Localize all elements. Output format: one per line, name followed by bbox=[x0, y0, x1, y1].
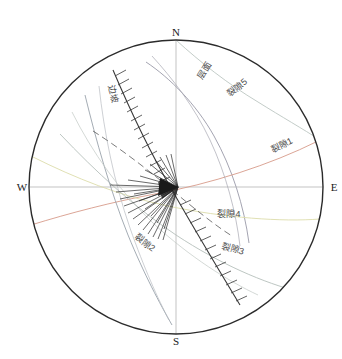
plane-label-slope: 边坡 bbox=[106, 84, 122, 104]
stereonet-figure: N E S W 层面 裂隙5 裂隙1 裂隙4 裂隙3 裂隙2 边坡 bbox=[0, 0, 342, 359]
stereonet-canvas: N E S W 层面 裂隙5 裂隙1 裂隙4 裂隙3 裂隙2 边坡 bbox=[0, 0, 342, 359]
cardinal-label-east: E bbox=[331, 181, 338, 193]
hachure-ticks-upper bbox=[115, 70, 170, 182]
cardinal-label-south: S bbox=[173, 335, 179, 347]
plane-label-joint2: 裂隙2 bbox=[133, 231, 158, 253]
plane-label-joint4: 裂隙4 bbox=[217, 208, 240, 219]
great-circle-joint3 bbox=[60, 134, 300, 292]
plane-label-joint5: 裂隙5 bbox=[224, 76, 249, 99]
plane-label-joint1: 裂隙1 bbox=[269, 135, 295, 155]
cardinal-label-west: W bbox=[17, 181, 28, 193]
great-circle-secondary-a bbox=[99, 86, 169, 320]
plane-label-joint3: 裂隙3 bbox=[220, 240, 245, 256]
cardinal-label-north: N bbox=[172, 26, 180, 38]
great-circle-joint5 bbox=[176, 40, 320, 140]
plane-label-bedding: 层面 bbox=[195, 60, 213, 81]
